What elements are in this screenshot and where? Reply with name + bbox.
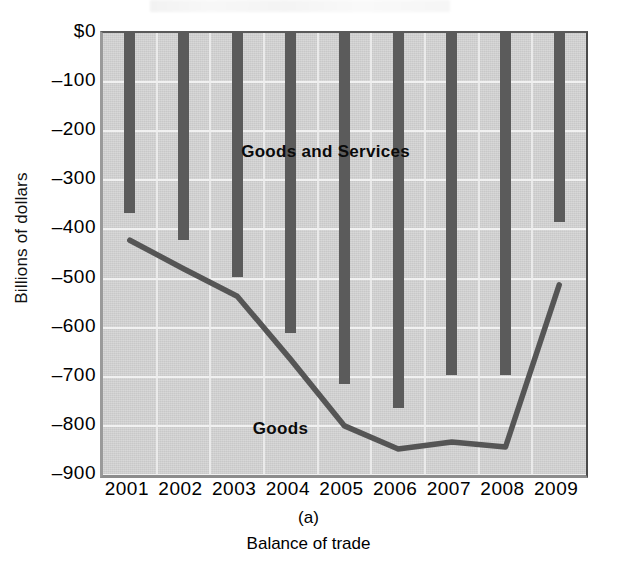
y-tick-label: –500: [4, 267, 96, 286]
x-axis-tick-labels: 200120022003200420052006200720082009: [100, 478, 583, 504]
y-tick-label: –700: [4, 365, 96, 384]
x-tick-label: 2008: [480, 478, 524, 500]
x-tick-label: 2006: [373, 478, 417, 500]
x-tick-label: 2002: [158, 478, 202, 500]
x-tick-label: 2005: [319, 478, 363, 500]
line-series-goods: [103, 33, 586, 475]
y-tick-label: –600: [4, 316, 96, 335]
x-tick-label: 2003: [212, 478, 256, 500]
y-tick-label: –100: [4, 70, 96, 89]
y-tick-label: –800: [4, 414, 96, 433]
cropped-header-sliver: [150, 0, 450, 12]
y-tick-label: –300: [4, 168, 96, 187]
x-tick-label: 2007: [427, 478, 471, 500]
x-tick-label: 2009: [534, 478, 578, 500]
figure-caption: Balance of trade: [0, 534, 617, 554]
annotation-goods: Goods: [253, 419, 308, 439]
x-tick-label: 2004: [266, 478, 310, 500]
figure-balance-of-trade: Billions of dollars $0–100–200–300–400–5…: [0, 0, 617, 568]
y-tick-label: –400: [4, 217, 96, 236]
y-axis-tick-labels: $0–100–200–300–400–500–600–700–800–900: [0, 0, 96, 568]
plot-area: Goods and Services Goods: [100, 31, 588, 478]
annotation-goods-and-services: Goods and Services: [241, 142, 410, 162]
x-tick-label: 2001: [105, 478, 149, 500]
y-tick-label: –900: [4, 463, 96, 482]
y-tick-label: $0: [4, 21, 96, 40]
panel-letter: (a): [0, 508, 617, 528]
y-tick-label: –200: [4, 119, 96, 138]
